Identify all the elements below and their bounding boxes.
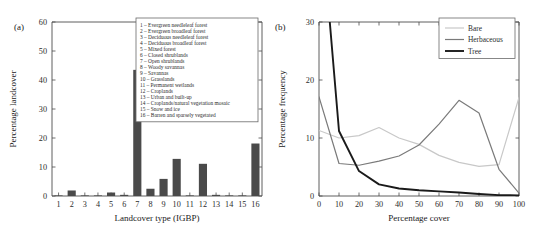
series-line-bare: [319, 97, 519, 166]
y-tick-label-a: 60: [39, 18, 47, 27]
x-tick-label-a: 8: [148, 200, 152, 209]
x-tick-label-b: 80: [475, 200, 483, 209]
x-tick-label-a: 16: [251, 200, 259, 209]
bar: [173, 159, 181, 196]
bar: [54, 195, 62, 196]
legend-label-bare: Bare: [468, 24, 483, 33]
bar: [107, 193, 115, 196]
y-tick-label-a: 30: [39, 105, 47, 114]
x-tick-label-a: 7: [135, 200, 139, 209]
bar-chart-svg: (a)010203040506012345678910111213141516L…: [0, 0, 271, 233]
x-tick-label-a: 9: [162, 200, 166, 209]
panel-a-label: (a): [14, 22, 24, 32]
legend-label-herbaceous: Herbaceous: [468, 35, 503, 44]
x-tick-label-a: 3: [83, 200, 87, 209]
y-tick-label-b: 10: [306, 134, 314, 143]
x-tick-label-a: 10: [173, 200, 181, 209]
y-tick-label-a: 20: [39, 134, 47, 143]
y-tick-label-b: 30: [306, 18, 314, 27]
x-axis-label-a: Landcover type (IGBP): [115, 213, 200, 223]
figure-container: (a)010203040506012345678910111213141516L…: [0, 0, 542, 233]
y-tick-label-a: 50: [39, 47, 47, 56]
bar: [120, 195, 128, 196]
bar: [94, 195, 102, 196]
x-tick-label-b: 40: [395, 200, 403, 209]
y-tick-label-a: 10: [39, 163, 47, 172]
y-tick-label-b: 0: [310, 192, 314, 201]
bar: [186, 195, 194, 196]
bar: [81, 195, 89, 196]
bar: [159, 179, 167, 196]
y-axis-label-a: Percentage landcover: [8, 70, 18, 147]
x-tick-label-b: 100: [513, 200, 525, 209]
x-tick-label-b: 50: [415, 200, 423, 209]
x-tick-label-a: 11: [186, 200, 194, 209]
bar: [251, 144, 259, 196]
x-tick-label-a: 2: [70, 200, 74, 209]
panel-b-label: (b): [275, 22, 286, 32]
panel-a-bar-chart: (a)010203040506012345678910111213141516L…: [0, 0, 271, 233]
x-tick-label-b: 10: [335, 200, 343, 209]
line-chart-svg: (b)01020300102030405060708090100Percenta…: [271, 0, 542, 233]
x-tick-label-b: 30: [375, 200, 383, 209]
bar: [199, 164, 207, 196]
x-axis-label-b: Percentage cover: [388, 213, 450, 223]
x-tick-label-a: 12: [199, 200, 207, 209]
legend-entry: 16 – Barren and sparsely vegetated: [140, 112, 216, 118]
x-tick-label-a: 4: [96, 200, 100, 209]
x-tick-label-b: 90: [495, 200, 503, 209]
x-tick-label-a: 6: [122, 200, 126, 209]
bar: [225, 195, 233, 196]
bar: [238, 195, 246, 196]
y-axis-label-b: Percentage frequency: [277, 70, 287, 148]
x-tick-label-b: 20: [355, 200, 363, 209]
x-tick-label-b: 70: [455, 200, 463, 209]
x-tick-label-b: 0: [317, 200, 321, 209]
bar: [212, 195, 220, 196]
x-tick-label-a: 15: [238, 200, 246, 209]
legend-label-tree: Tree: [468, 47, 482, 56]
bar: [68, 190, 76, 196]
panel-b-line-chart: (b)01020300102030405060708090100Percenta…: [271, 0, 542, 233]
x-tick-label-a: 1: [57, 200, 61, 209]
bar: [146, 189, 154, 196]
series-line-herbaceous: [319, 97, 519, 193]
x-tick-label-a: 13: [212, 200, 220, 209]
x-tick-label-b: 60: [435, 200, 443, 209]
y-tick-label-a: 40: [39, 76, 47, 85]
y-tick-label-b: 20: [306, 76, 314, 85]
y-tick-label-a: 0: [43, 192, 47, 201]
x-tick-label-a: 5: [109, 200, 113, 209]
x-tick-label-a: 14: [225, 200, 233, 209]
